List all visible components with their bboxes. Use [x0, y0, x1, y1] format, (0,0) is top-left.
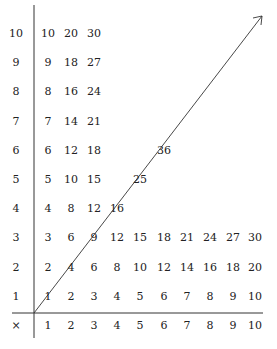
row-header: 1 — [4, 290, 28, 304]
grid-cell: 9 — [82, 231, 106, 245]
row-header: 2 — [4, 261, 28, 275]
row-header: 6 — [4, 144, 28, 158]
grid-cell: 21 — [175, 231, 199, 245]
grid-cell: 5 — [128, 290, 152, 304]
row-header: 10 — [4, 27, 28, 41]
column-header: 8 — [198, 319, 222, 333]
grid-cell: 12 — [82, 202, 106, 216]
row-header: 4 — [4, 202, 28, 216]
grid-cell: 3 — [36, 231, 60, 245]
grid-cell: 6 — [152, 290, 176, 304]
grid-cell: 30 — [82, 27, 106, 41]
grid-cell: 12 — [105, 231, 129, 245]
grid-cell: 8 — [36, 85, 60, 99]
grid-cell: 4 — [105, 290, 129, 304]
grid-cell: 20 — [59, 27, 83, 41]
column-header: 1 — [36, 319, 60, 333]
column-header: 4 — [105, 319, 129, 333]
grid-cell: 16 — [59, 85, 83, 99]
multiply-symbol: × — [4, 319, 28, 333]
grid-cell: 10 — [243, 290, 267, 304]
grid-cell: 25 — [128, 173, 152, 187]
grid-cell: 4 — [59, 261, 83, 275]
grid-cell: 15 — [82, 173, 106, 187]
grid-cell: 14 — [59, 115, 83, 129]
grid-cell: 8 — [59, 202, 83, 216]
grid-cell: 8 — [198, 290, 222, 304]
row-header: 9 — [4, 56, 28, 70]
grid-cell: 18 — [59, 56, 83, 70]
column-header: 2 — [59, 319, 83, 333]
grid-cell: 18 — [82, 144, 106, 158]
row-header: 5 — [4, 173, 28, 187]
column-header: 9 — [221, 319, 245, 333]
grid-cell: 14 — [175, 261, 199, 275]
grid-cell: 5 — [36, 173, 60, 187]
grid-cell: 30 — [243, 231, 267, 245]
grid-cell: 7 — [36, 115, 60, 129]
grid-cell: 4 — [36, 202, 60, 216]
grid-cell: 16 — [105, 202, 129, 216]
grid-cell: 10 — [59, 173, 83, 187]
column-header: 3 — [82, 319, 106, 333]
grid-cell: 3 — [82, 290, 106, 304]
grid-cell: 10 — [128, 261, 152, 275]
grid-cell: 12 — [152, 261, 176, 275]
grid-cell: 36 — [152, 144, 176, 158]
grid-cell: 24 — [82, 85, 106, 99]
grid-cell: 2 — [36, 261, 60, 275]
column-header: 5 — [128, 319, 152, 333]
grid-cell: 9 — [36, 56, 60, 70]
row-header: 7 — [4, 115, 28, 129]
grid-cell: 18 — [152, 231, 176, 245]
grid-cell: 27 — [82, 56, 106, 70]
grid-cell: 7 — [175, 290, 199, 304]
grid-cell: 18 — [221, 261, 245, 275]
grid-cell: 10 — [36, 27, 60, 41]
grid-cell: 6 — [59, 231, 83, 245]
grid-cell: 16 — [198, 261, 222, 275]
grid-cell: 24 — [198, 231, 222, 245]
grid-cell: 27 — [221, 231, 245, 245]
grid-cell: 2 — [59, 290, 83, 304]
grid-cell: 6 — [82, 261, 106, 275]
grid-cell: 12 — [59, 144, 83, 158]
grid-cell: 20 — [243, 261, 267, 275]
grid-cell: 9 — [221, 290, 245, 304]
grid-cell: 21 — [82, 115, 106, 129]
grid-cell: 8 — [105, 261, 129, 275]
column-header: 7 — [175, 319, 199, 333]
column-header: 6 — [152, 319, 176, 333]
grid-cell: 6 — [36, 144, 60, 158]
grid-cell: 1 — [36, 290, 60, 304]
row-header: 3 — [4, 231, 28, 245]
column-header: 10 — [243, 319, 267, 333]
grid-cell: 15 — [128, 231, 152, 245]
row-header: 8 — [4, 85, 28, 99]
